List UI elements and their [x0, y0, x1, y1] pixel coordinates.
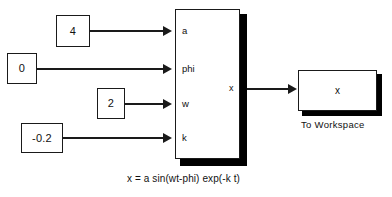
sink-shadow-right	[377, 74, 382, 116]
constant-value-a: 4	[70, 26, 76, 37]
to-workspace-label: To Workspace	[301, 119, 365, 130]
arrowhead-a	[163, 26, 172, 36]
signal-wire-k	[63, 137, 164, 139]
output-port-label-x: x	[229, 84, 234, 93]
to-workspace-variable: x	[335, 86, 340, 96]
sink-shadow-bottom	[302, 111, 382, 116]
input-port-label-a: a	[182, 26, 187, 36]
signal-wire-output	[247, 88, 289, 90]
input-port-label-w: w	[182, 99, 189, 109]
constant-value-phi: 0	[19, 63, 25, 74]
block-diagram-canvas: 4 0 2 -0.2 a phi w k x x To Workspace x …	[0, 0, 392, 197]
to-workspace-block[interactable]: x	[298, 70, 377, 111]
arrowhead-k	[163, 133, 172, 143]
signal-wire-w	[125, 103, 164, 105]
input-port-label-k: k	[182, 133, 187, 143]
subsystem-shadow-bottom	[180, 159, 247, 166]
subsystem-shadow-right	[240, 14, 247, 166]
arrowhead-phi	[163, 64, 172, 74]
subsystem-equation-caption: x = a sin(wt-phi) exp(-k t)	[127, 173, 240, 184]
input-port-label-phi: phi	[182, 64, 195, 74]
constant-value-w: 2	[108, 98, 114, 109]
constant-value-k: -0.2	[32, 133, 52, 144]
signal-wire-a	[90, 30, 164, 32]
constant-block-w[interactable]: 2	[97, 88, 125, 119]
arrowhead-w	[163, 99, 172, 109]
signal-wire-phi	[37, 68, 164, 70]
constant-block-a[interactable]: 4	[56, 15, 90, 47]
constant-block-k[interactable]: -0.2	[21, 123, 63, 153]
constant-block-phi[interactable]: 0	[7, 53, 37, 84]
arrowhead-output	[288, 84, 297, 94]
